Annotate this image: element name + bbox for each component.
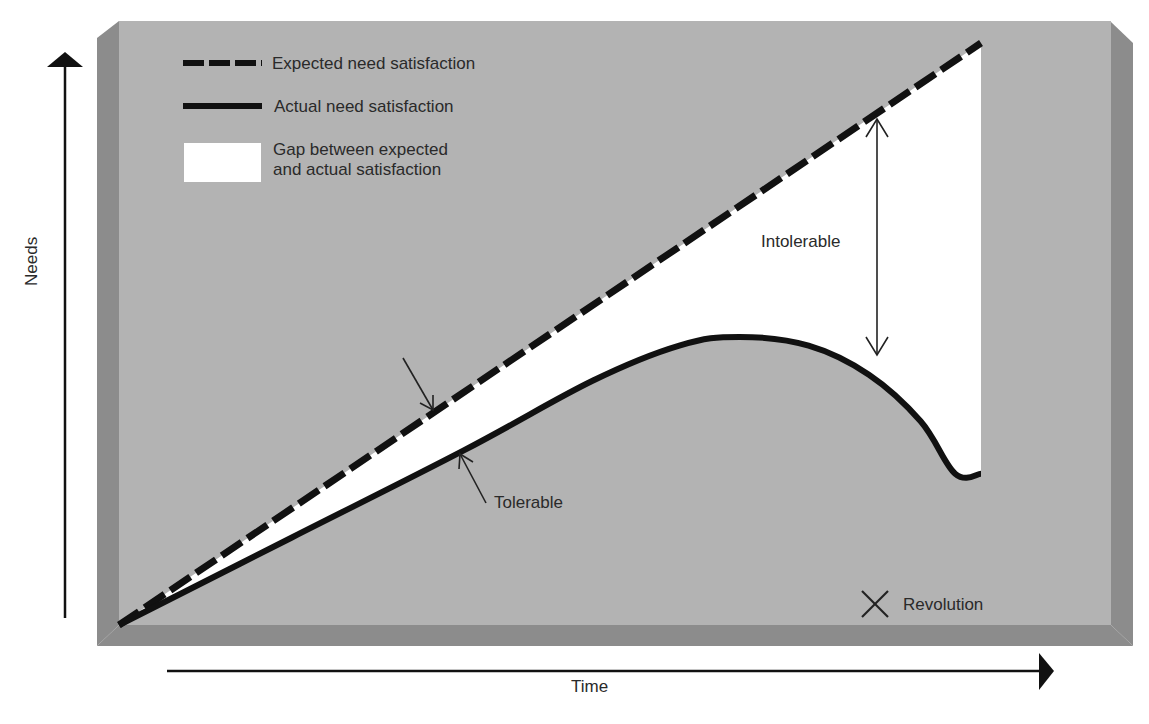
diagram-canvas [0, 0, 1149, 724]
legend-label-gap-line2: and actual satisfaction [273, 160, 441, 180]
y-axis-arrowhead-icon [47, 52, 83, 67]
intolerable-label: Intolerable [761, 232, 840, 252]
y-axis-arrow [47, 52, 83, 618]
revolution-label: Revolution [903, 595, 983, 615]
panel-bevel-right [1111, 22, 1133, 646]
legend-white-box-symbol [184, 143, 261, 182]
legend-label-gap-line1: Gap between expected [273, 140, 448, 160]
x-axis-arrowhead-icon [1039, 653, 1054, 690]
tolerable-label: Tolerable [494, 493, 563, 513]
x-axis-label: Time [571, 677, 608, 697]
x-axis-arrow [167, 653, 1054, 690]
y-axis-label: Needs [22, 237, 42, 286]
legend-label-expected: Expected need satisfaction [272, 54, 475, 74]
panel-bevel-left [97, 21, 119, 646]
legend-label-actual: Actual need satisfaction [274, 97, 454, 117]
panel-bevel-bottom [97, 625, 1133, 646]
revolution-diagram: Expected need satisfaction Actual need s… [0, 0, 1149, 724]
